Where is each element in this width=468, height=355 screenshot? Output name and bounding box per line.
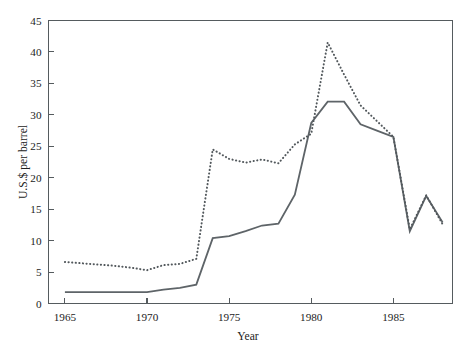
y-tick-label: 0 bbox=[36, 298, 42, 310]
x-axis-ticks: 19651970197519801985 bbox=[54, 298, 405, 323]
y-tick-label: 45 bbox=[30, 15, 42, 27]
y-tick-label: 15 bbox=[30, 203, 42, 215]
x-tick-label: 1975 bbox=[218, 311, 241, 323]
x-tick-label: 1965 bbox=[54, 311, 77, 323]
series-group bbox=[65, 43, 443, 293]
x-axis-title: Year bbox=[237, 330, 259, 343]
x-tick-label: 1980 bbox=[300, 311, 323, 323]
oil-price-chart-figure: 051015202530354045 19651970197519801985 … bbox=[0, 0, 468, 355]
y-tick-label: 40 bbox=[30, 46, 42, 58]
series-line-real-price bbox=[65, 43, 443, 271]
y-axis-title: U.S.$ per barrel bbox=[17, 125, 30, 199]
chart-canvas: 051015202530354045 19651970197519801985 … bbox=[0, 0, 468, 355]
y-tick-label: 10 bbox=[30, 235, 42, 247]
y-tick-label: 20 bbox=[30, 172, 42, 184]
y-axis-ticks: 051015202530354045 bbox=[30, 15, 54, 310]
x-tick-label: 1985 bbox=[382, 311, 405, 323]
x-tick-label: 1970 bbox=[136, 311, 159, 323]
y-tick-label: 5 bbox=[36, 266, 42, 278]
y-tick-label: 30 bbox=[30, 109, 42, 121]
y-tick-label: 25 bbox=[30, 140, 42, 152]
y-tick-label: 35 bbox=[30, 77, 42, 89]
